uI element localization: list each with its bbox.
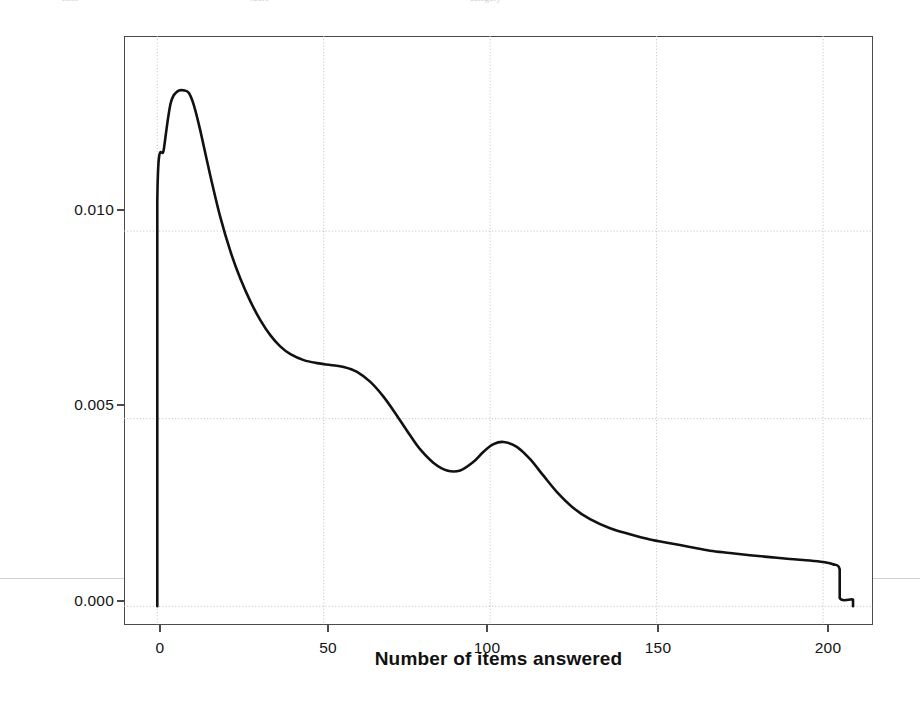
x-axis-title: Number of items answered [124,648,873,670]
x-tick-mark-1 [327,625,329,632]
x-tick-mark-2 [486,625,488,632]
x-tick-mark-0 [159,625,161,632]
y-tick-mark-0 [117,600,124,602]
y-tick-mark-1 [117,404,124,406]
density-plot-figure: 0.000 0.005 0.010 0 50 100 150 200 Proba… [0,0,920,708]
density-curve-path [157,90,853,606]
y-tick-mark-2 [117,209,124,211]
y-tick-label-2: 0.010 [4,201,114,219]
density-curve-svg [124,36,873,625]
y-tick-label-1: 0.005 [4,396,114,414]
x-tick-mark-3 [657,625,659,632]
x-tick-mark-4 [827,625,829,632]
y-tick-label-0: 0.000 [4,592,114,610]
gridlines-group [124,36,873,625]
